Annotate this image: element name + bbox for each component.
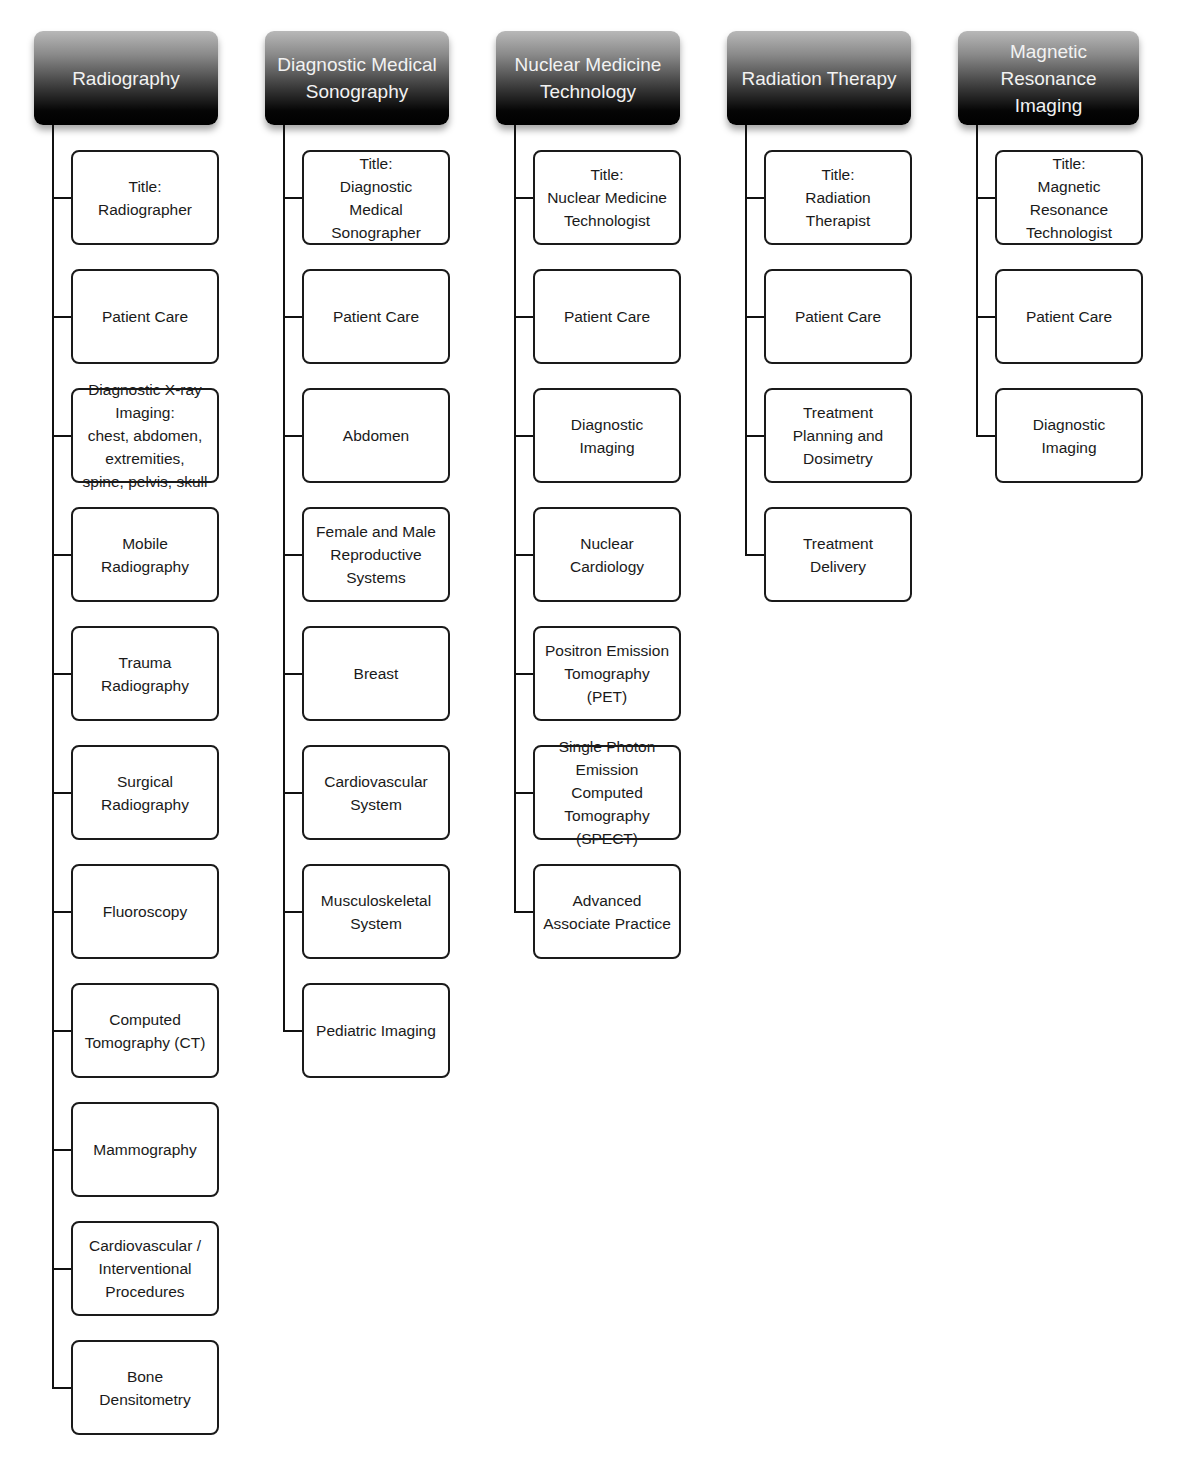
connector-branch [976, 316, 995, 318]
node-radiography: Mammography [71, 1102, 219, 1197]
column-header-radiation-therapy: Radiation Therapy [727, 31, 911, 125]
connector-branch [52, 911, 71, 913]
node-diagnostic-medical-sonography: Female and Male Reproductive Systems [302, 507, 450, 602]
node-radiography: Diagnostic X-ray Imaging: chest, abdomen… [71, 388, 219, 483]
connector-branch [283, 911, 302, 913]
node-radiography: Trauma Radiography [71, 626, 219, 721]
connector-branch [745, 554, 764, 556]
connector-branch [52, 673, 71, 675]
node-radiography: Computed Tomography (CT) [71, 983, 219, 1078]
column-header-magnetic-resonance-imaging: Magnetic Resonance Imaging [958, 31, 1139, 125]
connector-branch [283, 435, 302, 437]
connector-branch [283, 316, 302, 318]
node-diagnostic-medical-sonography: Musculoskeletal System [302, 864, 450, 959]
node-nuclear-medicine-technology: Diagnostic Imaging [533, 388, 681, 483]
connector-branch [514, 435, 533, 437]
connector-trunk [283, 125, 285, 1032]
node-radiography: Title: Radiographer [71, 150, 219, 245]
node-radiation-therapy: Treatment Planning and Dosimetry [764, 388, 912, 483]
node-radiography: Cardiovascular / Interventional Procedur… [71, 1221, 219, 1316]
connector-branch [52, 1030, 71, 1032]
connector-branch [745, 435, 764, 437]
connector-branch [976, 435, 995, 437]
node-nuclear-medicine-technology: Advanced Associate Practice [533, 864, 681, 959]
node-nuclear-medicine-technology: Title: Nuclear Medicine Technologist [533, 150, 681, 245]
connector-branch [52, 316, 71, 318]
node-radiography: Mobile Radiography [71, 507, 219, 602]
connector-branch [514, 673, 533, 675]
connector-branch [514, 911, 533, 913]
connector-branch [283, 792, 302, 794]
connector-branch [52, 435, 71, 437]
connector-branch [52, 792, 71, 794]
connector-branch [514, 197, 533, 199]
node-diagnostic-medical-sonography: Abdomen [302, 388, 450, 483]
node-radiation-therapy: Patient Care [764, 269, 912, 364]
connector-branch [745, 316, 764, 318]
node-diagnostic-medical-sonography: Patient Care [302, 269, 450, 364]
connector-branch [52, 197, 71, 199]
node-nuclear-medicine-technology: Nuclear Cardiology [533, 507, 681, 602]
connector-branch [283, 673, 302, 675]
node-diagnostic-medical-sonography: Breast [302, 626, 450, 721]
connector-branch [514, 792, 533, 794]
node-nuclear-medicine-technology: Single Photon Emission Computed Tomograp… [533, 745, 681, 840]
column-header-radiography: Radiography [34, 31, 218, 125]
column-header-nuclear-medicine-technology: Nuclear Medicine Technology [496, 31, 680, 125]
node-radiography: Bone Densitometry [71, 1340, 219, 1435]
node-radiography: Surgical Radiography [71, 745, 219, 840]
connector-branch [52, 1387, 71, 1389]
connector-branch [514, 554, 533, 556]
connector-branch [976, 197, 995, 199]
connector-branch [52, 1149, 71, 1151]
node-diagnostic-medical-sonography: Title: Diagnostic Medical Sonographer [302, 150, 450, 245]
connector-trunk [745, 125, 747, 556]
node-radiography: Patient Care [71, 269, 219, 364]
node-magnetic-resonance-imaging: Patient Care [995, 269, 1143, 364]
connector-trunk [514, 125, 516, 913]
node-nuclear-medicine-technology: Patient Care [533, 269, 681, 364]
connector-branch [283, 197, 302, 199]
node-radiation-therapy: Title: Radiation Therapist [764, 150, 912, 245]
connector-branch [283, 554, 302, 556]
connector-branch [514, 316, 533, 318]
column-header-diagnostic-medical-sonography: Diagnostic Medical Sonography [265, 31, 449, 125]
node-magnetic-resonance-imaging: Diagnostic Imaging [995, 388, 1143, 483]
node-diagnostic-medical-sonography: Cardiovascular System [302, 745, 450, 840]
connector-branch [52, 1268, 71, 1270]
node-radiography: Fluoroscopy [71, 864, 219, 959]
connector-branch [283, 1030, 302, 1032]
connector-branch [745, 197, 764, 199]
connector-branch [52, 554, 71, 556]
node-diagnostic-medical-sonography: Pediatric Imaging [302, 983, 450, 1078]
node-magnetic-resonance-imaging: Title: Magnetic Resonance Technologist [995, 150, 1143, 245]
node-radiation-therapy: Treatment Delivery [764, 507, 912, 602]
node-nuclear-medicine-technology: Positron Emission Tomography (PET) [533, 626, 681, 721]
connector-trunk [976, 125, 978, 437]
